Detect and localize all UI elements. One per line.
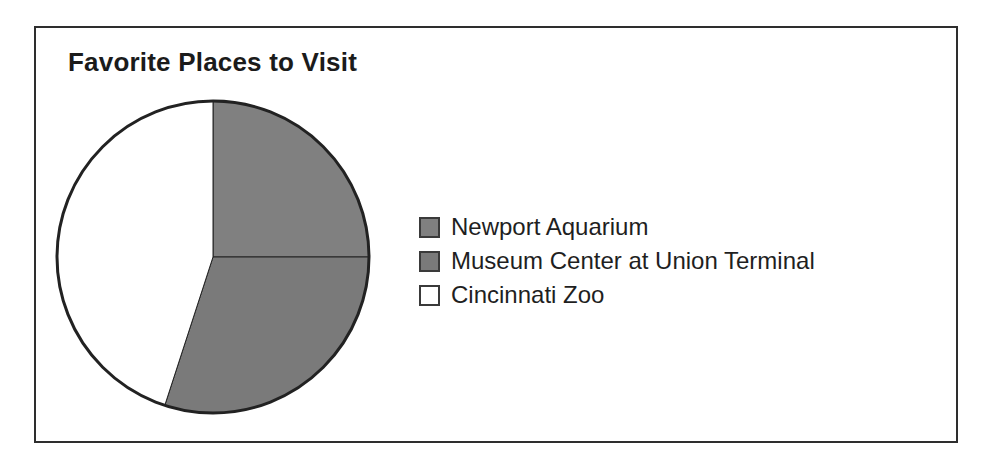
legend-swatch-newport-aquarium-icon — [419, 217, 440, 238]
legend-label-newport-aquarium: Newport Aquarium — [451, 215, 648, 239]
pie-chart-graphic — [54, 98, 372, 416]
legend-label-cincinnati-zoo: Cincinnati Zoo — [451, 283, 604, 307]
pie-chart-figure: Favorite Places to Visit Newport Aquariu… — [0, 0, 997, 469]
pie-slice-group — [57, 101, 369, 413]
legend-item-cincinnati-zoo[interactable]: Cincinnati Zoo — [419, 278, 919, 312]
legend-item-newport-aquarium[interactable]: Newport Aquarium — [419, 210, 919, 244]
legend-swatch-museum-center-icon — [419, 251, 440, 272]
legend-item-museum-center[interactable]: Museum Center at Union Terminal — [419, 244, 919, 278]
legend-swatch-cincinnati-zoo-icon — [419, 285, 440, 306]
legend-label-museum-center: Museum Center at Union Terminal — [451, 249, 815, 273]
chart-legend: Newport Aquarium Museum Center at Union … — [419, 210, 919, 312]
pie-svg — [54, 98, 372, 416]
pie-slice-1[interactable] — [213, 101, 369, 257]
chart-title: Favorite Places to Visit — [68, 47, 357, 78]
